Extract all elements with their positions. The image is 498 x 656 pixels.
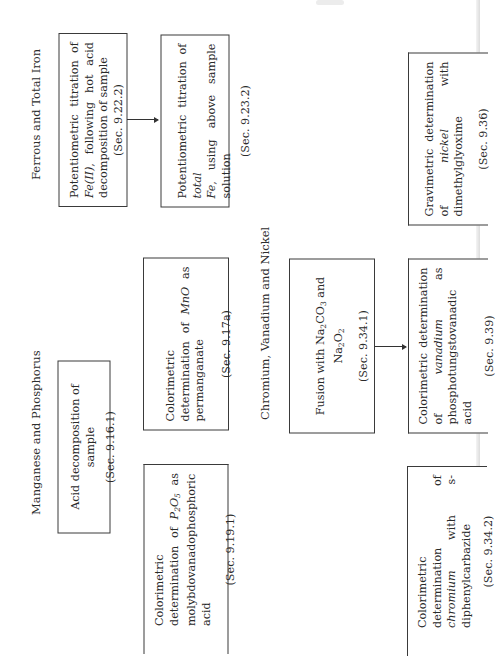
section-title-chromium: Chromium, Vanadium and Nickel [258,260,274,420]
section-ref: (Sec. 9.34.1) [357,267,372,424]
flow-box-nickel-gravimetric: Gravimetric determination of nickel with… [408,52,488,225]
box-text: Gravimetric determination of nickel with… [423,53,491,224]
section-ref: (Sec. 9.34.2) [482,475,497,628]
section-title-ferrous-text: Ferrous and Total Iron [29,60,45,180]
flow-box-p2o5-colorimetric: Colorimetric determination of P2O5 as mo… [143,464,228,654]
section-title-manganese-text: Manganese and Phosphorus [29,375,45,515]
section-ref: (Sec. 9.23.2) [238,43,253,198]
flow-box-chromium-colorimetric: Colorimetric determination of chromium w… [407,466,487,656]
flow-box-acid-decomposition: Acid decomposition of sample (Sec. 9.16.… [57,360,110,533]
section-ref: (Sec. 9.19.1) [223,473,238,626]
flow-box-vanadium-colorimetric: Colorimetric determination of vanadium a… [408,258,488,433]
flow-box-fusion: Fusion with Na2CO3 and Na2O2 (Sec. 9.34.… [289,258,375,433]
box-text: Acid decomposition of sample (Sec. 9.16.… [68,361,118,532]
box-text: Potentiometric titration of Fe(II), foll… [67,34,125,206]
box-text: Colorimetric determination of P2O5 as mo… [152,465,238,634]
box-text: Colorimetric determination of MnO as per… [164,258,234,429]
section-ref: (Sec. 9.39) [483,267,498,424]
arrow-right-icon [127,119,158,120]
box-text: Potentiometric titration of totalFe, usi… [175,35,253,206]
box-text: Fusion with Na2CO3 and Na2O2 (Sec. 9.34.… [314,259,372,432]
box-text: Colorimetric determination of chromium w… [416,467,497,636]
section-title-manganese: Manganese and Phosphorus [29,375,45,515]
box-text: Colorimetric determination of vanadium a… [417,259,498,432]
section-title-ferrous: Ferrous and Total Iron [29,60,45,180]
flow-box-fe2-titration: Potentiometric titration of Fe(II), foll… [58,33,127,207]
flow-box-mno-colorimetric: Colorimetric determination of MnO as per… [143,257,229,430]
section-ref: (Sec. 9.16.1) [103,369,118,524]
section-title-chromium-text: Chromium, Vanadium and Nickel [258,260,274,420]
section-ref: (Sec. 9.17a) [220,266,235,421]
arrow-right-icon [375,346,406,347]
section-ref: (Sec. 9.36) [477,61,492,216]
flow-box-total-fe-titration: Potentiometric titration of totalFe, usi… [160,34,229,207]
scan-smudge [316,0,344,5]
section-ref: (Sec. 9.22.2) [111,42,126,198]
